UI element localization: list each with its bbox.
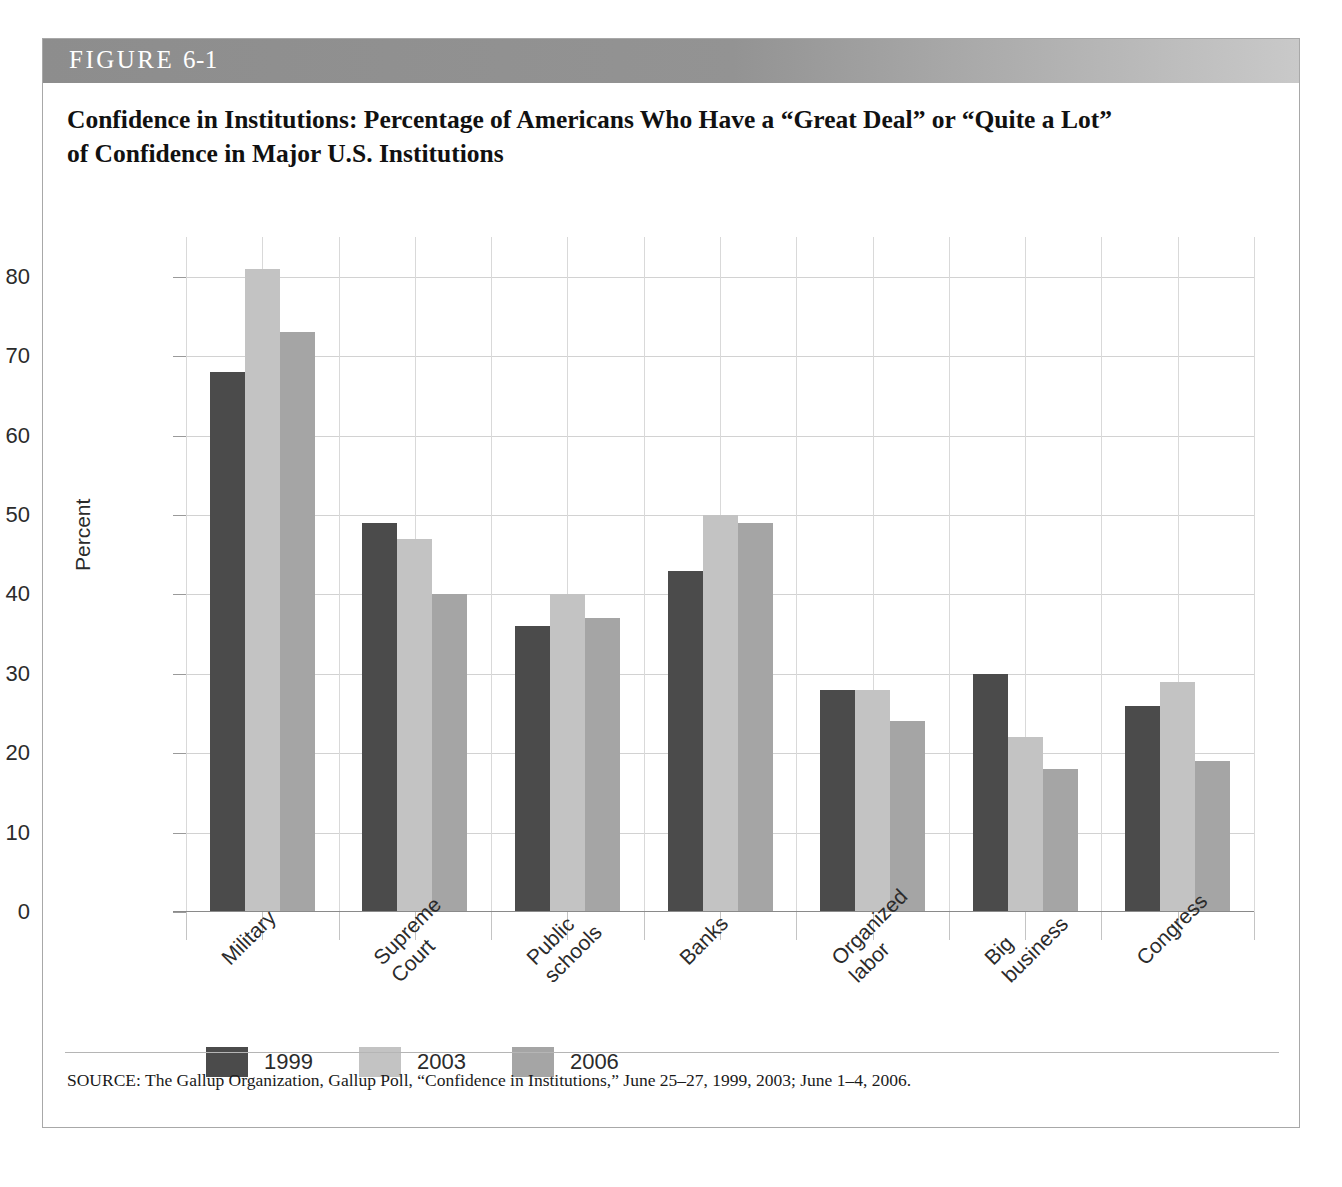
bar-1999-military <box>210 372 245 912</box>
gridline-vertical <box>949 237 950 912</box>
bar-2006-military <box>280 332 315 912</box>
gridline-vertical <box>186 237 187 912</box>
figure-container: FIGURE 6-1 Confidence in Institutions: P… <box>42 38 1300 1128</box>
figure-number-label: FIGURE 6-1 <box>69 46 218 74</box>
figure-number: 6-1 <box>183 46 218 73</box>
y-tick-mark <box>173 277 186 278</box>
y-tick-mark <box>173 833 186 834</box>
y-tick-mark <box>173 674 186 675</box>
y-tick-label: 60 <box>0 423 30 449</box>
gridline-vertical <box>796 237 797 912</box>
x-tick-mark <box>796 912 797 940</box>
gridline-vertical <box>1101 237 1102 912</box>
bar-1999-supreme-court <box>362 523 397 912</box>
chart-canvas: Percent 01020304050607080 MilitarySuprem… <box>43 179 1301 1079</box>
y-tick-mark <box>173 436 186 437</box>
bar-2003-public-schools <box>550 594 585 912</box>
gridline-vertical <box>491 237 492 912</box>
bar-1999-public-schools <box>515 626 550 912</box>
title-line-1: Confidence in Institutions: Percentage o… <box>67 103 1257 137</box>
y-tick-label: 20 <box>0 740 30 766</box>
x-tick-mark <box>1254 912 1255 940</box>
x-category-label-public-schools: Publicschools <box>521 902 607 988</box>
bar-2003-big-business <box>1008 737 1043 912</box>
y-axis-label: Percent <box>71 499 95 571</box>
bar-2003-congress <box>1160 682 1195 912</box>
bar-2006-supreme-court <box>432 594 467 912</box>
bar-1999-big-business <box>973 674 1008 912</box>
y-tick-label: 80 <box>0 264 30 290</box>
bar-2006-congress <box>1195 761 1230 912</box>
y-tick-mark <box>173 594 186 595</box>
x-category-label-line: Banks <box>674 911 732 969</box>
page-title: Confidence in Institutions: Percentage o… <box>67 103 1257 171</box>
x-category-label-military: Military <box>216 905 281 970</box>
y-tick-mark <box>173 356 186 357</box>
y-tick-label: 40 <box>0 581 30 607</box>
x-category-label-line: Military <box>216 906 279 969</box>
x-category-label-banks: Banks <box>674 911 733 970</box>
figure-word: FIGURE <box>69 46 174 73</box>
x-tick-mark <box>186 912 187 940</box>
bar-2006-big-business <box>1043 769 1078 912</box>
x-tick-mark <box>339 912 340 940</box>
source-divider <box>65 1052 1279 1053</box>
bar-2006-public-schools <box>585 618 620 912</box>
y-tick-label: 10 <box>0 820 30 846</box>
bar-2003-organized-labor <box>855 690 890 912</box>
gridline-vertical <box>339 237 340 912</box>
plot-area: 01020304050607080 MilitarySupremeCourtPu… <box>186 237 1254 912</box>
y-tick-mark <box>173 515 186 516</box>
y-tick-label: 30 <box>0 661 30 687</box>
bar-2003-military <box>245 269 280 912</box>
bar-2003-supreme-court <box>397 539 432 912</box>
bar-2003-banks <box>703 515 738 912</box>
bar-1999-organized-labor <box>820 690 855 912</box>
x-tick-mark <box>949 912 950 940</box>
x-tick-mark <box>1101 912 1102 940</box>
y-tick-label: 50 <box>0 502 30 528</box>
source-note: SOURCE: The Gallup Organization, Gallup … <box>67 1069 1267 1091</box>
title-line-2: of Confidence in Major U.S. Institutions <box>67 137 1257 171</box>
y-tick-label: 70 <box>0 343 30 369</box>
y-tick-mark <box>173 912 186 913</box>
gridline-vertical <box>1254 237 1255 912</box>
bar-1999-banks <box>668 571 703 912</box>
gridline-vertical <box>644 237 645 912</box>
y-tick-label: 0 <box>0 899 30 925</box>
figure-header-band: FIGURE 6-1 <box>43 39 1299 83</box>
x-tick-mark <box>644 912 645 940</box>
x-tick-mark <box>491 912 492 940</box>
bar-1999-congress <box>1125 706 1160 912</box>
bar-2006-banks <box>738 523 773 912</box>
y-tick-mark <box>173 753 186 754</box>
